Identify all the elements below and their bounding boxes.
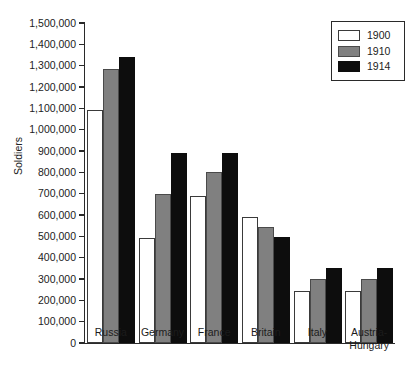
bar-france-1910: [206, 172, 222, 343]
legend-item: 1914: [338, 60, 398, 74]
y-axis-tick: [79, 342, 85, 343]
y-axis-tick-label: 800,000: [38, 167, 76, 178]
bar-group: [139, 23, 187, 343]
y-axis-tick: [79, 278, 85, 279]
bar-chart: Soldiers 1,500,0001,400,0001,300,0001,20…: [0, 0, 414, 382]
y-axis-tick-label: 0: [70, 338, 76, 349]
y-axis-tick-label: 900,000: [38, 146, 76, 157]
y-axis-tick-label: 600,000: [38, 210, 76, 221]
y-axis-tick-label: 200,000: [38, 295, 76, 306]
y-axis-tick: [79, 257, 85, 258]
y-axis-tick: [79, 22, 85, 23]
bar-germany-1910: [155, 194, 171, 343]
bar-france-1914: [222, 153, 238, 343]
y-axis-tick: [79, 214, 85, 215]
y-axis-tick-label: 300,000: [38, 274, 76, 285]
legend-swatch-1910: [338, 46, 360, 57]
bar-germany-1914: [171, 153, 187, 343]
y-axis-tick: [79, 321, 85, 322]
x-axis-category-label: Britain: [240, 326, 292, 339]
y-axis-tick-label: 100,000: [38, 316, 76, 327]
bar-group: [242, 23, 290, 343]
bar-russia-1910: [103, 69, 119, 343]
y-axis-tick: [79, 172, 85, 173]
y-axis-tick-label: 1,000,000: [29, 124, 76, 135]
x-axis-category-label: France: [188, 326, 240, 339]
y-axis-tick-label: 1,300,000: [29, 60, 76, 71]
y-axis-tick-label: 700,000: [38, 188, 76, 199]
y-axis-title: Soldiers: [12, 116, 24, 196]
y-axis-tick-label: 1,200,000: [29, 82, 76, 93]
legend-swatch-1900: [338, 30, 360, 41]
bar-france-1900: [190, 196, 206, 343]
x-axis-category-label: Russia: [85, 326, 137, 339]
bar-group: [87, 23, 135, 343]
y-axis-tick: [79, 44, 85, 45]
y-axis-tick: [79, 86, 85, 87]
y-axis-tick: [79, 193, 85, 194]
y-axis-tick-label: 1,400,000: [29, 39, 76, 50]
bar-britain-1900: [242, 217, 258, 343]
y-axis-line: [84, 23, 85, 343]
bar-russia-1900: [87, 110, 103, 343]
legend-swatch-1914: [338, 61, 360, 72]
x-axis-category-label: Italy: [292, 326, 344, 339]
y-axis-tick: [79, 108, 85, 109]
y-axis-tick: [79, 150, 85, 151]
y-axis-tick-label: 1,500,000: [29, 18, 76, 29]
x-axis-category-label: Germany: [137, 326, 189, 339]
legend-item: 1910: [338, 44, 398, 58]
legend-label-1914: 1914: [367, 61, 390, 72]
legend: 1900 1910 1914: [331, 21, 405, 81]
y-axis-tick-label: 500,000: [38, 231, 76, 242]
bar-group: [190, 23, 238, 343]
y-axis-tick-label: 1,100,000: [29, 103, 76, 114]
legend-label-1910: 1910: [367, 46, 390, 57]
y-axis-tick: [79, 236, 85, 237]
legend-label-1900: 1900: [367, 30, 390, 41]
y-axis-tick-label: 400,000: [38, 252, 76, 263]
bar-russia-1914: [119, 57, 135, 343]
y-axis-tick: [79, 129, 85, 130]
legend-item: 1900: [338, 29, 398, 43]
y-axis-tick: [79, 65, 85, 66]
y-axis-tick: [79, 300, 85, 301]
x-axis-category-label: Austria- Hungary: [343, 326, 395, 351]
